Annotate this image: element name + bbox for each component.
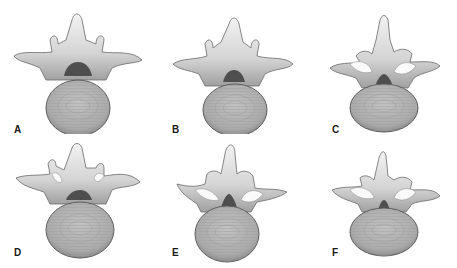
- panel-label-e: E: [172, 247, 179, 258]
- vertebra-illustration-d: [0, 134, 152, 268]
- panel-c: [310, 0, 457, 134]
- vertebra-illustration-b: [155, 0, 307, 134]
- vertebra-illustration-a: [0, 0, 152, 134]
- panel-a: [0, 0, 152, 134]
- panel-d: [0, 134, 152, 268]
- panel-b: [155, 0, 307, 134]
- vertebra-illustration-c: [310, 0, 457, 134]
- panel-label-d: D: [14, 247, 21, 258]
- panel-label-f: F: [332, 247, 338, 258]
